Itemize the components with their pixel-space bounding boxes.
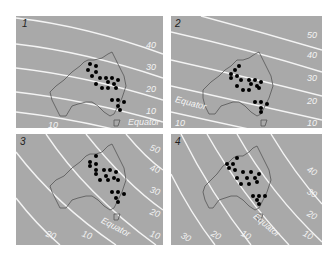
australia-outline <box>203 52 273 126</box>
panel-1: 1 40 30 20 10 Equator 10 <box>16 16 163 128</box>
panel-number: 3 <box>20 136 26 147</box>
latitude-label: 10 <box>307 118 317 128</box>
latitude-label: 30 <box>307 73 317 83</box>
data-dots <box>225 156 267 206</box>
panel-number: 2 <box>175 18 181 29</box>
panel-4: 4 40 30 20 10 Equator 30 20 10 <box>171 134 322 245</box>
data-dots <box>88 154 126 204</box>
panel-number: 1 <box>22 18 28 29</box>
latitude-label: 20 <box>307 96 317 106</box>
latitude-label: 30 <box>146 62 156 72</box>
latitude-label: 10 <box>175 118 185 128</box>
panel-number: 4 <box>175 136 181 147</box>
latitude-lines <box>16 134 163 245</box>
latitude-label: 40 <box>146 40 156 50</box>
latitude-label: 10 <box>146 106 156 116</box>
panel-3: 3 50 40 30 20 10 Equator 20 10 <box>16 134 163 245</box>
latitude-label: 50 <box>307 30 317 40</box>
panel-2: 2 50 40 30 20 10 Equator 10 <box>171 16 322 128</box>
latitude-lines <box>16 16 163 128</box>
latitude-label: 10 <box>48 120 58 128</box>
latitude-lines <box>171 134 322 245</box>
latitude-label: 40 <box>307 50 317 60</box>
equator-label: Equator <box>128 117 160 127</box>
latitude-label: 20 <box>146 84 156 94</box>
latitude-lines <box>171 16 322 128</box>
